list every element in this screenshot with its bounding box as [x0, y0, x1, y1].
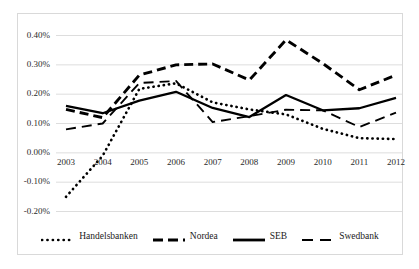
y-axis-tick-label: 0.10% — [10, 119, 50, 128]
x-axis-tick-label: 2012 — [379, 158, 413, 167]
legend-item-seb: SEB — [232, 231, 287, 241]
y-axis-tick-label: 0.30% — [10, 60, 50, 69]
series-line-seb — [66, 92, 396, 117]
x-axis-tick-label: 2003 — [49, 158, 83, 167]
long-dash-line-swatch — [301, 231, 335, 241]
x-axis-tick-label: 2004 — [86, 158, 120, 167]
x-axis-tick-label: 2007 — [196, 158, 230, 167]
legend-label-seb: SEB — [270, 231, 287, 241]
x-axis-tick-label: 2010 — [306, 158, 340, 167]
dotted-line-swatch — [41, 231, 75, 241]
x-axis-tick-label: 2005 — [122, 158, 156, 167]
y-axis-tick-label: 0.20% — [10, 89, 50, 98]
legend-item-swedbank: Swedbank — [301, 231, 379, 241]
legend-label-handelsbanken: Handelsbanken — [79, 231, 138, 241]
x-axis-tick-label: 2009 — [269, 158, 303, 167]
data-series-group — [66, 40, 396, 197]
legend-item-handelsbanken: Handelsbanken — [41, 231, 138, 241]
dashed-line-swatch — [152, 231, 186, 241]
chart-container: 0.40%0.30%0.20%0.10%0.00%-0.10%-0.20% 20… — [0, 0, 419, 269]
y-axis-tick-label: -0.20% — [10, 207, 50, 216]
legend-label-swedbank: Swedbank — [339, 231, 379, 241]
legend-label-nordea: Nordea — [190, 231, 218, 241]
y-axis-tick-label: 0.00% — [10, 148, 50, 157]
series-line-handelsbanken — [66, 83, 396, 197]
x-axis-tick-label: 2011 — [342, 158, 376, 167]
y-axis-tick-label: -0.10% — [10, 177, 50, 186]
legend-item-nordea: Nordea — [152, 231, 218, 241]
chart-legend: Handelsbanken Nordea SEB Swedbank — [17, 227, 403, 245]
solid-line-swatch — [232, 231, 266, 241]
x-axis-tick-label: 2008 — [232, 158, 266, 167]
y-axis-tick-label: 0.40% — [10, 31, 50, 40]
x-axis-tick-label: 2006 — [159, 158, 193, 167]
